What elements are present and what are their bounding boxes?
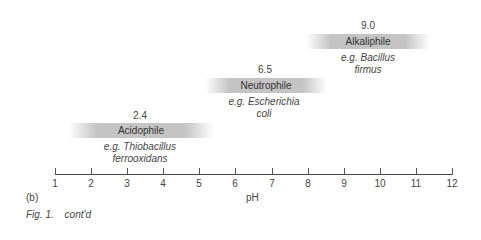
tick-mark xyxy=(452,168,453,175)
tick-mark xyxy=(380,168,381,175)
tick-label: 6 xyxy=(225,178,245,189)
tick-label: 3 xyxy=(117,178,137,189)
tick-mark xyxy=(91,168,92,175)
tick-mark xyxy=(344,168,345,175)
ph-axis-line xyxy=(55,174,453,175)
neutrophile-example: e.g. Escherichia coli xyxy=(214,96,314,120)
tick-mark xyxy=(199,168,200,175)
tick-mark xyxy=(272,168,273,175)
tick-label: 12 xyxy=(442,178,462,189)
x-axis-label: pH xyxy=(246,192,259,203)
tick-label: 10 xyxy=(370,178,390,189)
figure-caption: Fig. 1. cont'd xyxy=(26,209,91,220)
figure-number: Fig. 1. xyxy=(26,209,54,220)
tick-label: 8 xyxy=(298,178,318,189)
tick-mark xyxy=(416,168,417,175)
tick-label: 11 xyxy=(406,178,426,189)
tick-mark xyxy=(308,168,309,175)
neutrophile-band: Neutrophile xyxy=(205,78,327,93)
alkaliphile-optimum: 9.0 xyxy=(338,20,398,31)
tick-label: 7 xyxy=(262,178,282,189)
neutrophile-optimum: 6.5 xyxy=(235,64,295,75)
tick-mark xyxy=(127,168,128,175)
tick-label: 5 xyxy=(189,178,209,189)
acidophile-example: e.g. Thiobacillus ferrooxidans xyxy=(90,141,190,165)
acidophile-example-line1: e.g. Thiobacillus xyxy=(90,141,190,153)
figure-caption-text: cont'd xyxy=(65,209,91,220)
alkaliphile-example-line2: firmus xyxy=(318,64,418,76)
tick-mark xyxy=(55,168,56,175)
acidophile-band: Acidophile xyxy=(68,123,214,138)
tick-label: 2 xyxy=(81,178,101,189)
tick-mark xyxy=(163,168,164,175)
tick-mark xyxy=(235,168,236,175)
neutrophile-example-line2: coli xyxy=(214,108,314,120)
alkaliphile-example-line1: e.g. Bacillus xyxy=(318,52,418,64)
tick-label: 9 xyxy=(334,178,354,189)
tick-label: 4 xyxy=(153,178,173,189)
panel-label: (b) xyxy=(26,192,38,203)
alkaliphile-band: Alkaliphile xyxy=(306,34,430,49)
neutrophile-example-line1: e.g. Escherichia xyxy=(214,96,314,108)
acidophile-example-line2: ferrooxidans xyxy=(90,153,190,165)
tick-label: 1 xyxy=(45,178,65,189)
acidophile-optimum: 2.4 xyxy=(110,110,170,121)
alkaliphile-example: e.g. Bacillus firmus xyxy=(318,52,418,76)
